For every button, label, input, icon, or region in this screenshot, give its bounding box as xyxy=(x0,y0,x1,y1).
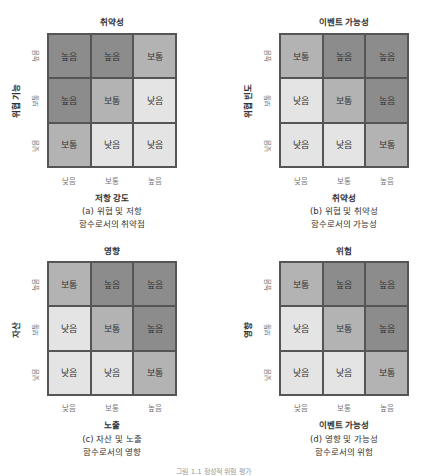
panel-risk: 위험 영향 높음 보통 낮음 보통 높음 높음 낮음 보통 높음 낮음 낮음 보… xyxy=(0,228,427,458)
matrix-cell: 낮음 xyxy=(280,78,323,122)
y-tick-medium: 보통 xyxy=(262,86,272,116)
matrix-cell: 낮음 xyxy=(323,351,366,395)
caption-line-1: (b) 위협 및 취약성 xyxy=(279,205,409,218)
matrix-cell: 낮음 xyxy=(280,123,323,167)
panel-title: 위험 xyxy=(279,244,409,256)
matrix-cell: 낮음 xyxy=(280,351,323,395)
risk-matrix-grid: 보통 높음 높음 낮음 보통 높음 낮음 낮음 보통 xyxy=(279,261,409,396)
panel-title: 이벤트 가능성 xyxy=(279,15,409,27)
x-ticks: 낮음 보통 높음 xyxy=(279,175,409,186)
x-tick-low: 낮음 xyxy=(279,402,322,413)
x-axis-label: 이벤트 가능성 xyxy=(279,418,409,430)
figure-caption: 그림 1.1 정성적 위험 평가 xyxy=(0,466,427,476)
y-tick-medium: 보통 xyxy=(262,315,272,345)
x-axis-label: 취약성 xyxy=(279,191,409,203)
y-axis-label: 위협 빈도 xyxy=(241,61,253,141)
matrix-cell: 보통 xyxy=(323,78,366,122)
y-axis-label: 영향 xyxy=(241,290,253,370)
matrix-cell: 높음 xyxy=(323,262,366,306)
panel-caption: (d) 영향 및 가능성 함수로서의 위험 xyxy=(279,433,409,459)
x-tick-high: 높음 xyxy=(366,175,409,186)
matrix-cell: 높음 xyxy=(365,306,408,350)
panel-event-likelihood: 이벤트 가능성 위협 빈도 높음 보통 낮음 보통 높음 높음 낮음 보통 높음… xyxy=(0,0,427,230)
x-tick-low: 낮음 xyxy=(279,175,322,186)
matrix-cell: 높음 xyxy=(365,34,408,78)
risk-matrix-grid: 보통 높음 높음 낮음 보통 높음 낮음 낮음 보통 xyxy=(279,33,409,168)
matrix-cell: 낮음 xyxy=(323,123,366,167)
matrix-cell: 낮음 xyxy=(280,306,323,350)
matrix-cell: 보통 xyxy=(365,351,408,395)
x-tick-high: 높음 xyxy=(366,402,409,413)
caption-line-1: (d) 영향 및 가능성 xyxy=(279,433,409,446)
x-ticks: 낮음 보통 높음 xyxy=(279,402,409,413)
y-tick-low: 낮음 xyxy=(262,360,272,390)
y-tick-high: 높음 xyxy=(262,41,272,71)
x-tick-medium: 보통 xyxy=(322,175,365,186)
matrix-cell: 보통 xyxy=(280,34,323,78)
matrix-cell: 보통 xyxy=(280,262,323,306)
matrix-cell: 높음 xyxy=(365,262,408,306)
y-tick-low: 낮음 xyxy=(262,131,272,161)
x-tick-medium: 보통 xyxy=(322,402,365,413)
matrix-cell: 높음 xyxy=(365,78,408,122)
matrix-cell: 보통 xyxy=(323,306,366,350)
y-tick-high: 높음 xyxy=(262,270,272,300)
matrix-cell: 높음 xyxy=(323,34,366,78)
caption-line-2: 함수로서의 위험 xyxy=(279,446,409,459)
matrix-cell: 보통 xyxy=(365,123,408,167)
